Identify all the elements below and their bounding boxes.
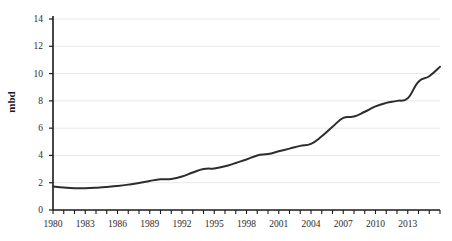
x-tick-label: 1980 [36,219,70,229]
x-tick-label: 1989 [133,219,167,229]
x-tick-label: 1983 [68,219,102,229]
x-tick-label: 2004 [294,219,328,229]
x-tick-label: 1992 [165,219,199,229]
data-series-line [53,67,440,189]
y-tick-label: 6 [23,123,43,133]
x-tick-label: 2010 [359,219,393,229]
y-tick-label: 2 [23,178,43,188]
y-tick-label: 10 [23,69,43,79]
x-tick-label: 1986 [101,219,135,229]
x-tick-label: 1995 [197,219,231,229]
y-tick-label: 4 [23,150,43,160]
x-tick-label: 2001 [262,219,296,229]
x-tick-label: 2013 [391,219,425,229]
y-axis-label: mbd [5,79,17,125]
x-tick-label: 1998 [230,219,264,229]
chart-figure: mbd 02468101214 198019831986198919921995… [0,0,452,241]
x-tick-label: 2007 [326,219,360,229]
y-tick-label: 0 [23,205,43,215]
y-tick-label: 14 [23,14,43,24]
y-tick-label: 8 [23,96,43,106]
line-chart-plot [0,0,452,241]
gridlines [53,19,440,183]
y-tick-label: 12 [23,41,43,51]
